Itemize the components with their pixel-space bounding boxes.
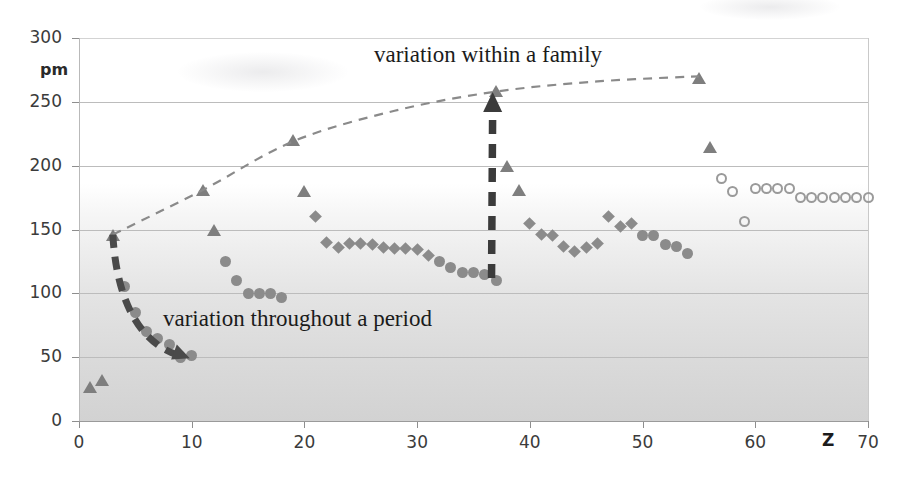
data-point-circle-open	[840, 192, 851, 203]
x-tick-label: 40	[510, 432, 550, 452]
data-point-triangle	[207, 224, 221, 236]
scan-smudge	[700, 0, 840, 20]
x-tick-mark	[79, 421, 80, 428]
y-tick-label: 0	[16, 410, 62, 430]
x-tick-mark	[755, 421, 756, 428]
data-point-triangle	[500, 160, 514, 172]
data-point-circle	[660, 239, 671, 250]
y-tick-mark	[72, 357, 79, 358]
data-point-circle-open	[739, 216, 750, 227]
y-gridline	[79, 38, 868, 39]
data-point-circle-open	[795, 192, 806, 203]
chart-root: 050100150200250300 010203040506070 pm Z …	[0, 0, 914, 484]
data-point-circle	[434, 256, 445, 267]
y-tick-mark	[72, 421, 79, 422]
x-tick-label: 50	[623, 432, 663, 452]
x-tick-label: 30	[397, 432, 437, 452]
data-point-circle-open	[716, 173, 727, 184]
data-point-circle	[479, 269, 490, 280]
x-tick-label: 20	[284, 432, 324, 452]
annotation-variation-throughout-period: variation throughout a period	[163, 306, 432, 332]
x-tick-mark	[304, 421, 305, 428]
x-tick-mark	[868, 421, 869, 428]
y-tick-mark	[72, 166, 79, 167]
data-point-circle	[265, 288, 276, 299]
y-tick-label: 100	[16, 282, 62, 302]
data-point-triangle	[95, 374, 109, 386]
data-point-circle-open	[829, 192, 840, 203]
data-point-circle-open	[750, 183, 761, 194]
x-tick-mark	[643, 421, 644, 428]
x-tick-label: 60	[735, 432, 775, 452]
y-tick-mark	[72, 293, 79, 294]
y-gridline	[79, 293, 868, 294]
y-gridline	[79, 230, 868, 231]
y-tick-label: 50	[16, 346, 62, 366]
data-point-triangle	[692, 72, 706, 84]
data-point-circle	[175, 352, 186, 363]
data-point-triangle	[489, 85, 503, 97]
plot-right-border	[868, 38, 869, 421]
x-tick-label: 70	[848, 432, 888, 452]
data-point-triangle	[106, 229, 120, 241]
data-point-circle	[152, 333, 163, 344]
y-gridline	[79, 102, 868, 103]
data-point-triangle	[196, 184, 210, 196]
data-point-circle	[276, 292, 287, 303]
x-tick-label: 10	[172, 432, 212, 452]
data-point-circle	[119, 281, 130, 292]
y-tick-mark	[72, 230, 79, 231]
x-axis-line	[79, 421, 868, 422]
y-axis-unit-label: pm	[40, 60, 68, 79]
plot-left-border	[79, 38, 80, 421]
y-tick-label: 200	[16, 155, 62, 175]
y-tick-label: 300	[16, 27, 62, 47]
data-point-circle	[164, 339, 175, 350]
data-point-triangle	[286, 134, 300, 146]
x-tick-mark	[417, 421, 418, 428]
scan-smudge	[178, 52, 348, 92]
y-tick-label: 250	[16, 91, 62, 111]
data-point-circle-open	[784, 183, 795, 194]
x-tick-label: 0	[59, 432, 99, 452]
y-tick-mark	[72, 38, 79, 39]
data-point-circle	[671, 241, 682, 252]
y-tick-mark	[72, 102, 79, 103]
y-gridline	[79, 166, 868, 167]
x-tick-mark	[192, 421, 193, 428]
data-point-circle	[243, 288, 254, 299]
data-point-circle-open	[863, 192, 874, 203]
y-tick-label: 150	[16, 219, 62, 239]
data-point-circle	[130, 307, 141, 318]
x-tick-mark	[530, 421, 531, 428]
data-point-circle	[220, 256, 231, 267]
annotation-variation-within-family: variation within a family	[374, 42, 602, 68]
data-point-circle	[254, 288, 265, 299]
data-point-triangle	[297, 185, 311, 197]
data-point-circle-open	[727, 186, 738, 197]
y-gridline	[79, 357, 868, 358]
data-point-circle	[491, 275, 502, 286]
data-point-triangle	[703, 141, 717, 153]
data-point-triangle	[512, 184, 526, 196]
x-axis-title: Z	[822, 430, 834, 450]
